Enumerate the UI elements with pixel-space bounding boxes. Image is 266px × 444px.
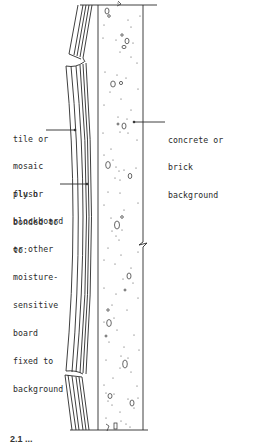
label-line: sensitive	[13, 301, 63, 310]
label-board: ply or blockboard or other moisture- sen…	[13, 171, 63, 403]
label-line: blockboard	[13, 217, 63, 226]
break-symbol	[139, 242, 147, 247]
aggregate-stones	[105, 8, 134, 429]
label-line: or other	[13, 245, 63, 254]
label-line: board	[13, 329, 63, 338]
label-background: concrete or brick background	[168, 117, 223, 210]
label-line: fixed to	[13, 357, 63, 366]
label-line: concrete or	[168, 136, 223, 145]
label-line: brick	[168, 163, 223, 172]
tile-layers-lower	[65, 375, 89, 430]
tile-layers-upper	[69, 5, 92, 62]
aggregate-speckles	[103, 2, 141, 427]
tile-layers-middle	[66, 62, 92, 374]
figure-caption: 2.1 ...	[10, 434, 33, 444]
label-line: background	[168, 191, 223, 200]
label-line: ply or	[13, 190, 63, 199]
label-line: tile or	[13, 135, 58, 144]
label-line: moisture-	[13, 273, 63, 282]
label-line: background	[13, 385, 63, 394]
